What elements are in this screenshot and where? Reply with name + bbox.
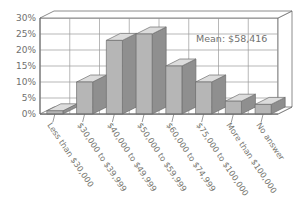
y-tick-20: 20% [16, 45, 36, 55]
y-tick-5: 5% [22, 93, 37, 103]
bar-front-2 [106, 40, 122, 114]
bar-front-1 [77, 82, 93, 114]
bar-front-7 [255, 104, 271, 114]
bar-2 [106, 33, 136, 114]
bar-4 [166, 59, 196, 114]
y-tick-15: 15% [16, 61, 36, 71]
bar-front-6 [225, 101, 241, 114]
y-tick-30: 30% [16, 13, 36, 23]
y-tick-0: 0% [22, 109, 37, 119]
bar-3 [136, 27, 166, 114]
bar-side-2 [122, 33, 136, 114]
ceiling-band [40, 11, 292, 18]
mean-annotation: Mean: $58,416 [196, 33, 267, 44]
bar-side-3 [152, 27, 166, 114]
y-tick-25: 25% [16, 29, 36, 39]
bar-chart: 30% 25% 20% 15% 10% 5% 0% Mean: $58,416 … [0, 0, 305, 220]
bar-front-4 [166, 66, 182, 114]
category-label-5: $75,000 to $100,000 [194, 121, 251, 198]
x-axis-category-labels: Less than $30,000 $30,000 to $39,999 $40… [45, 121, 287, 198]
bar-side-4 [182, 59, 196, 114]
bar-front-3 [136, 34, 152, 114]
chart-canvas: 30% 25% 20% 15% 10% 5% 0% Mean: $58,416 … [0, 0, 305, 220]
y-axis-ticks: 30% 25% 20% 15% 10% 5% 0% [16, 13, 36, 119]
bar-5 [196, 75, 226, 114]
bar-1 [77, 75, 107, 114]
category-label-7: No answer [254, 121, 287, 163]
bar-front-5 [196, 82, 212, 114]
y-tick-10: 10% [16, 77, 36, 87]
